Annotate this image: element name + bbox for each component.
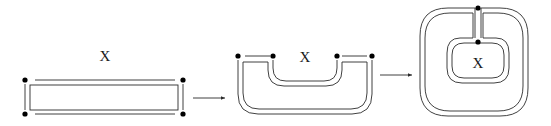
stage-3-nested-band: X xyxy=(420,5,528,116)
stage-3-label: X xyxy=(473,55,484,71)
stage-1-flat-band: X xyxy=(22,48,185,117)
endpoint-dot xyxy=(475,5,480,10)
endpoint-dot xyxy=(334,53,339,58)
endpoint-dot xyxy=(235,53,240,58)
stage-1-label: X xyxy=(100,48,111,64)
endpoint-dot xyxy=(475,39,480,44)
endpoint-dot xyxy=(270,53,275,58)
endpoint-dot xyxy=(22,77,27,82)
endpoint-dot xyxy=(369,53,374,58)
stage-2-label: X xyxy=(300,49,311,65)
diagram-canvas: X X xyxy=(0,0,551,126)
endpoint-dot xyxy=(180,77,185,82)
stage-2-u-band: X xyxy=(235,49,374,114)
endpoint-dot xyxy=(180,111,185,116)
endpoint-dot xyxy=(22,111,27,116)
